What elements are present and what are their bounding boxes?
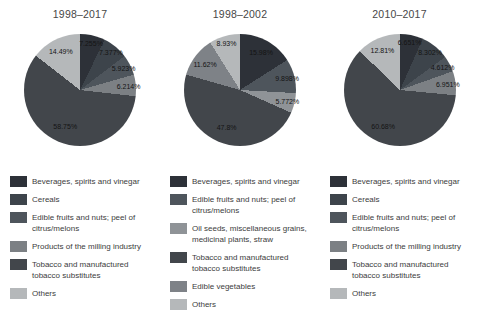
chart-column-2010-2017: 2010–2017 6.651%8.302%4.612%6.951%60.68%… xyxy=(320,0,479,315)
legend-swatch xyxy=(10,176,27,187)
legend-swatch xyxy=(330,212,347,223)
legend-item: Others xyxy=(330,288,479,299)
legend-label: Others xyxy=(32,288,158,299)
legend-swatch xyxy=(10,212,27,223)
legend-swatch xyxy=(10,194,27,205)
legend-label: Others xyxy=(352,288,478,299)
pie-wrapper: 7.255%7.377%5.923%6.214%58.75%14.49% xyxy=(24,34,136,146)
legend-swatch xyxy=(10,259,27,270)
legend-label: Tobacco and manufactured tobacco substit… xyxy=(32,259,158,281)
legend-item: Products of the milling industry xyxy=(10,241,160,252)
legend-item: Cereals xyxy=(10,194,160,205)
chart-title: 2010–2017 xyxy=(320,8,479,20)
legend-item: Beverages, spirits and vinegar xyxy=(10,176,160,187)
chart-title: 1998–2017 xyxy=(0,8,160,20)
legend-swatch xyxy=(170,176,187,187)
legend-swatch xyxy=(330,259,347,270)
legend-label: Cereals xyxy=(352,194,478,205)
legend-item: Beverages, spirits and vinegar xyxy=(330,176,479,187)
legend-label: Beverages, spirits and vinegar xyxy=(352,176,478,187)
legend-label: Beverages, spirits and vinegar xyxy=(32,176,158,187)
legend-item: Tobacco and manufactured tobacco substit… xyxy=(170,252,320,274)
pie-charts-figure: 1998–2017 7.255%7.377%5.923%6.214%58.75%… xyxy=(0,0,479,315)
legend-label: Cereals xyxy=(32,194,158,205)
legend-item: Beverages, spirits and vinegar xyxy=(170,176,320,187)
pie-chart xyxy=(24,34,136,146)
legend-swatch xyxy=(10,241,27,252)
legend-item: Edible fruits and nuts; peel of citrus/m… xyxy=(170,194,320,216)
legend-item: Edible fruits and nuts; peel of citrus/m… xyxy=(10,212,160,234)
legend-label: Tobacco and manufactured tobacco substit… xyxy=(192,252,318,274)
legend-swatch xyxy=(330,241,347,252)
legend-label: Products of the milling industry xyxy=(32,241,158,252)
legend-item: Others xyxy=(10,288,160,299)
legend-item: Products of the milling industry xyxy=(330,241,479,252)
legend-label: Tobacco and manufactured tobacco substit… xyxy=(352,259,478,281)
chart-title: 1998–2002 xyxy=(160,8,320,20)
legend-swatch xyxy=(170,299,187,310)
legend-swatch xyxy=(330,194,347,205)
legend-item: Edible vegetables xyxy=(170,281,320,292)
legend: Beverages, spirits and vinegarCerealsEdi… xyxy=(320,176,479,299)
pie-chart xyxy=(184,34,296,146)
legend-item: Cereals xyxy=(330,194,479,205)
pie-wrapper: 6.651%8.302%4.612%6.951%60.68%12.81% xyxy=(344,34,456,146)
legend: Beverages, spirits and vinegarEdible fru… xyxy=(160,176,320,310)
legend-item: Edible fruits and nuts; peel of citrus/m… xyxy=(330,212,479,234)
legend-item: Tobacco and manufactured tobacco substit… xyxy=(330,259,479,281)
legend-swatch xyxy=(330,176,347,187)
legend-item: Oil seeds, miscellaneous grains, medicin… xyxy=(170,223,320,245)
legend-label: Edible fruits and nuts; peel of citrus/m… xyxy=(352,212,478,234)
legend-swatch xyxy=(330,288,347,299)
legend-label: Oil seeds, miscellaneous grains, medicin… xyxy=(192,223,318,245)
pie-wrapper: 15.98%9.898%5.772%47.8%11.62%8.93% xyxy=(184,34,296,146)
legend-swatch xyxy=(170,194,187,205)
legend-swatch xyxy=(10,288,27,299)
legend-item: Others xyxy=(170,299,320,310)
legend-label: Beverages, spirits and vinegar xyxy=(192,176,318,187)
pie-chart xyxy=(344,34,456,146)
legend-label: Edible fruits and nuts; peel of citrus/m… xyxy=(32,212,158,234)
legend-item: Tobacco and manufactured tobacco substit… xyxy=(10,259,160,281)
legend-swatch xyxy=(170,252,187,263)
chart-column-1998-2002: 1998–2002 15.98%9.898%5.772%47.8%11.62%8… xyxy=(160,0,320,315)
legend: Beverages, spirits and vinegarCerealsEdi… xyxy=(0,176,160,299)
chart-column-1998-2017: 1998–2017 7.255%7.377%5.923%6.214%58.75%… xyxy=(0,0,160,315)
legend-label: Edible fruits and nuts; peel of citrus/m… xyxy=(192,194,318,216)
legend-label: Others xyxy=(192,299,318,310)
legend-swatch xyxy=(170,223,187,234)
legend-label: Products of the milling industry xyxy=(352,241,478,252)
legend-label: Edible vegetables xyxy=(192,281,318,292)
legend-swatch xyxy=(170,281,187,292)
